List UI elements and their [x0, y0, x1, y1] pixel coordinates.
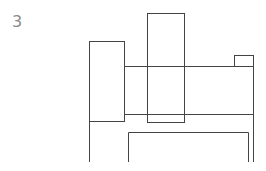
left-box [90, 42, 125, 122]
long-horizontal-bar [125, 67, 254, 115]
bottom-open-frame [129, 133, 249, 163]
tall-box [148, 14, 185, 123]
mechanical-block-diagram [0, 0, 266, 171]
small-tab-box [235, 56, 254, 67]
